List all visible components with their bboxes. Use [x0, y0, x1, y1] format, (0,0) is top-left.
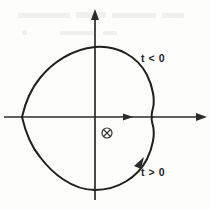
real-axis-arrow-icon [196, 113, 207, 121]
label-t-negative: t < 0 [141, 52, 165, 64]
axis-direction-arrow-icon [123, 114, 133, 121]
contour-plot-svg [0, 0, 211, 210]
label-t-positive: t > 0 [141, 166, 165, 178]
contour-figure: t < 0 t > 0 [0, 0, 211, 210]
upper-contour [22, 47, 154, 117]
lower-contour [22, 117, 154, 190]
imaginary-axis-arrow-icon [91, 9, 99, 20]
